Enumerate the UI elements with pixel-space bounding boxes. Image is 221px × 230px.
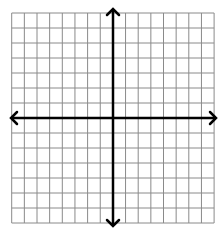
- background: [0, 0, 221, 230]
- coordinate-plane: [0, 0, 221, 230]
